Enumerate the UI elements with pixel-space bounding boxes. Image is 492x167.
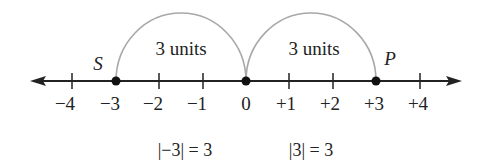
- point-origin: [242, 77, 251, 86]
- point-s: [112, 77, 121, 86]
- tick-label: 0: [241, 93, 251, 114]
- tick-label: −4: [55, 93, 76, 114]
- tick-label: +3: [364, 93, 384, 114]
- tick-label: +1: [276, 93, 296, 114]
- arc-label-left: 3 units: [155, 38, 206, 59]
- tick-labels: −4 −3 −2 −1 0 +1 +2 +3 +4: [55, 93, 429, 114]
- equation-right: |3| = 3: [289, 140, 333, 160]
- tick-label: +2: [320, 93, 340, 114]
- point-p: [372, 77, 381, 86]
- tick-label: −1: [187, 93, 207, 114]
- number-line-diagram: S P 3 units 3 units −4 −3 −2 −1 0 +1 +2 …: [0, 0, 492, 167]
- arc-label-right: 3 units: [288, 38, 339, 59]
- equation-left: |−3| = 3: [158, 140, 213, 160]
- point-label-s: S: [93, 53, 103, 74]
- number-line-svg: S P 3 units 3 units −4 −3 −2 −1 0 +1 +2 …: [0, 0, 492, 167]
- point-label-p: P: [383, 48, 396, 69]
- tick-label: −2: [143, 93, 163, 114]
- tick-label: −3: [100, 93, 120, 114]
- tick-label: +4: [408, 93, 429, 114]
